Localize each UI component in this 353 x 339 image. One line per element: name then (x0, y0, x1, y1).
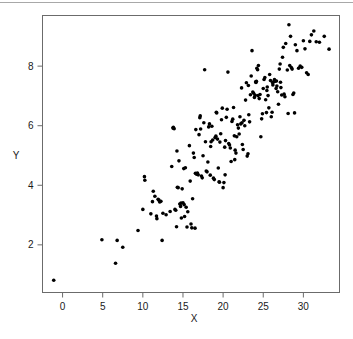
data-point (188, 179, 192, 183)
data-point (221, 186, 225, 190)
data-point (184, 166, 188, 170)
data-point (244, 98, 248, 102)
data-point (278, 62, 282, 66)
data-point (276, 90, 280, 94)
data-point (214, 111, 218, 115)
data-point (247, 113, 251, 117)
data-point (183, 215, 187, 219)
scatter-plot: 051015202530 2468 X Y (0, 0, 353, 339)
data-point (310, 33, 314, 37)
data-point (209, 145, 213, 149)
x-axis-ticks: 051015202530 (60, 293, 310, 312)
x-tick-label: 15 (177, 301, 189, 312)
data-point (322, 35, 326, 39)
data-point (155, 217, 159, 221)
data-point (180, 187, 184, 191)
data-point (303, 47, 307, 51)
y-tick-label: 2 (28, 239, 34, 250)
data-point (216, 166, 220, 170)
data-point (263, 76, 267, 80)
x-tick-label: 20 (218, 301, 230, 312)
y-tick-label: 4 (28, 180, 34, 191)
data-point (265, 111, 269, 115)
data-point (261, 112, 265, 116)
data-point (201, 154, 205, 158)
data-point (189, 222, 193, 226)
data-point (225, 108, 229, 112)
data-point (161, 211, 165, 215)
data-point (279, 86, 283, 90)
y-axis-ticks: 2468 (28, 61, 43, 251)
data-point (171, 126, 175, 130)
data-point (232, 106, 236, 110)
x-tick-label: 25 (258, 301, 270, 312)
data-point (248, 120, 252, 124)
data-point (267, 106, 271, 110)
data-point (115, 239, 119, 243)
data-point (160, 239, 164, 243)
data-point (151, 200, 155, 204)
x-tick-label: 5 (100, 301, 106, 312)
data-point (177, 159, 181, 163)
data-point (223, 145, 227, 149)
data-point (179, 205, 183, 209)
data-point (204, 140, 208, 144)
data-point (226, 70, 230, 74)
data-point (218, 140, 222, 144)
data-point (176, 186, 180, 190)
data-point (229, 160, 233, 164)
data-point (192, 156, 196, 160)
data-point (289, 35, 293, 39)
data-point (175, 225, 179, 229)
data-point (222, 181, 226, 185)
data-point (249, 74, 253, 78)
data-point (100, 238, 104, 242)
data-point (271, 81, 275, 85)
data-point (191, 197, 195, 201)
data-point (281, 55, 285, 59)
data-point (231, 117, 235, 121)
data-point (241, 148, 245, 152)
data-point (194, 172, 198, 176)
data-point (249, 93, 253, 97)
data-point (143, 175, 147, 179)
data-point (168, 210, 172, 214)
data-point (237, 132, 241, 136)
data-point (293, 111, 297, 115)
data-point (225, 116, 229, 120)
data-point (212, 178, 216, 182)
data-point (170, 165, 174, 169)
data-point (292, 91, 296, 95)
data-point (221, 106, 225, 110)
data-point (284, 42, 288, 46)
x-tick-label: 10 (137, 301, 149, 312)
data-point (275, 84, 279, 88)
data-point (149, 212, 153, 216)
data-point (151, 189, 155, 193)
data-point (246, 152, 250, 156)
data-point (294, 43, 298, 47)
data-point (312, 29, 316, 33)
data-point (318, 41, 322, 45)
data-point (275, 79, 279, 83)
data-point (282, 46, 286, 50)
data-point (205, 170, 209, 174)
data-point (277, 102, 281, 106)
data-point (174, 208, 178, 212)
data-point (199, 127, 203, 131)
data-point (136, 229, 140, 233)
data-point (197, 133, 201, 137)
data-point (159, 200, 163, 204)
data-point (186, 210, 190, 214)
y-axis-title: Y (13, 150, 20, 161)
data-point (114, 262, 118, 266)
data-point (247, 84, 251, 88)
data-point (216, 137, 220, 141)
data-point (182, 203, 186, 207)
data-point (233, 158, 237, 162)
data-point (203, 68, 207, 72)
data-point (302, 39, 306, 43)
data-point (208, 173, 212, 177)
data-point (254, 80, 258, 84)
data-point (175, 149, 179, 153)
